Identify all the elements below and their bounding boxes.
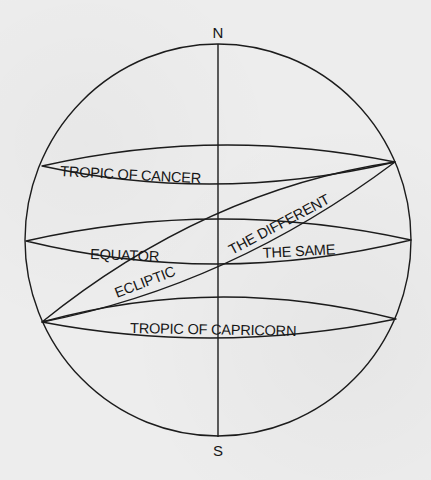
- tropic-of-cancer-label: TROPIC OF CANCER: [60, 163, 202, 186]
- tropic-of-capricorn-label: TROPIC OF CAPRICORN: [130, 320, 296, 339]
- south-pole-label: S: [213, 442, 223, 459]
- the-same-label: THE SAME: [262, 241, 336, 261]
- celestial-sphere-diagram: N S TROPIC OF CANCER EQUATOR ECLIPTIC TH…: [0, 0, 431, 480]
- north-pole-label: N: [213, 24, 224, 41]
- equator-label: EQUATOR: [90, 246, 159, 264]
